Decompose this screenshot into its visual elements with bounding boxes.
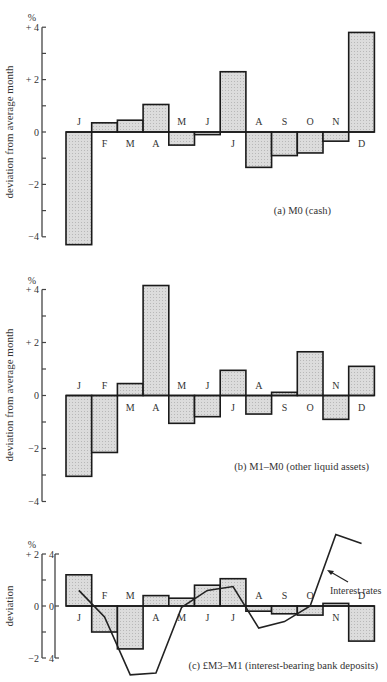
panel-title: (c) £M3–M1 (interest-bearing bank deposi… bbox=[188, 660, 378, 672]
month-label: J bbox=[77, 612, 81, 623]
month-label: A bbox=[152, 612, 160, 623]
y-tick-label: −4 bbox=[28, 496, 39, 507]
bar bbox=[349, 32, 375, 132]
y-axis-label: deviation bbox=[3, 585, 15, 626]
y-tick-label: + 4 bbox=[26, 284, 39, 295]
month-label: N bbox=[332, 612, 339, 623]
bar bbox=[349, 366, 375, 395]
month-label: D bbox=[358, 138, 365, 149]
bar bbox=[246, 396, 272, 415]
unit-label: % bbox=[28, 12, 36, 23]
y-axis-label: deviation from average month bbox=[3, 65, 15, 198]
bar bbox=[92, 123, 118, 132]
unit-label: % bbox=[28, 275, 36, 286]
panel-title: (b) M1–M0 (other liquid assets) bbox=[234, 461, 369, 473]
panel-c-m3-m1: + 20−2%deviationJFMAMJJASOND(c) £M3–M1 (… bbox=[3, 535, 381, 675]
month-label: A bbox=[255, 380, 263, 391]
bar bbox=[297, 352, 323, 396]
bar bbox=[246, 132, 272, 167]
secondary-tick-label: 0 bbox=[49, 601, 54, 612]
month-label: O bbox=[307, 116, 314, 127]
y-tick-label: + 2 bbox=[26, 337, 39, 348]
bar bbox=[323, 132, 349, 141]
bar bbox=[143, 596, 169, 606]
bar bbox=[272, 132, 298, 156]
month-label: A bbox=[255, 116, 263, 127]
y-tick-label: 0 bbox=[34, 127, 39, 138]
arrowhead-icon bbox=[327, 570, 334, 575]
seasonal-deviation-charts: + 4+ 20−2−4%deviation from average month… bbox=[0, 0, 387, 682]
month-label: A bbox=[152, 138, 160, 149]
month-label: J bbox=[231, 138, 235, 149]
y-tick-label: −4 bbox=[28, 231, 39, 242]
bar bbox=[272, 606, 298, 614]
unit-label: % bbox=[28, 539, 36, 550]
bar bbox=[66, 132, 92, 245]
bar bbox=[220, 72, 246, 132]
bar bbox=[143, 104, 169, 132]
bar bbox=[297, 132, 323, 153]
month-label: F bbox=[102, 380, 108, 391]
month-label: J bbox=[205, 380, 209, 391]
month-label: S bbox=[282, 590, 288, 601]
y-tick-label: + 2 bbox=[26, 74, 39, 85]
bar bbox=[220, 370, 246, 395]
month-label: S bbox=[282, 116, 288, 127]
month-label: A bbox=[152, 402, 160, 413]
panel-title: (a) M0 (cash) bbox=[274, 205, 332, 217]
y-tick-label: −2 bbox=[28, 653, 39, 664]
month-label: D bbox=[358, 402, 365, 413]
y-tick-label: −2 bbox=[28, 443, 39, 454]
month-label: O bbox=[307, 402, 314, 413]
month-label: J bbox=[77, 380, 81, 391]
panel-b-m1-m0: + 4+ 20−2−4%deviation from average month… bbox=[3, 275, 374, 508]
month-label: N bbox=[332, 116, 339, 127]
month-label: J bbox=[231, 612, 235, 623]
secondary-tick-label: 4 bbox=[49, 653, 54, 664]
month-label: M bbox=[177, 116, 186, 127]
month-label: N bbox=[332, 380, 339, 391]
month-label: S bbox=[282, 402, 288, 413]
y-tick-label: 0 bbox=[34, 390, 39, 401]
month-label: F bbox=[102, 590, 108, 601]
bar bbox=[169, 396, 195, 424]
panel-a-m0-cash: + 4+ 20−2−4%deviation from average month… bbox=[3, 12, 374, 244]
y-tick-label: −2 bbox=[28, 179, 39, 190]
month-label: J bbox=[77, 116, 81, 127]
y-tick-label: + 2 bbox=[26, 549, 39, 560]
month-label: J bbox=[231, 402, 235, 413]
bar bbox=[117, 120, 143, 132]
bar bbox=[195, 396, 221, 417]
bar bbox=[117, 384, 143, 396]
secondary-tick-label: 4 bbox=[49, 549, 54, 560]
month-label: J bbox=[205, 116, 209, 127]
interest-rates-annotation: Interest rates bbox=[330, 585, 381, 596]
bar bbox=[349, 606, 375, 641]
month-label: M bbox=[126, 590, 135, 601]
bar bbox=[117, 606, 143, 649]
y-axis-label: deviation from average month bbox=[3, 328, 15, 461]
bar bbox=[66, 396, 92, 477]
month-label: M bbox=[177, 380, 186, 391]
bar bbox=[169, 132, 195, 145]
month-label: F bbox=[102, 138, 108, 149]
month-label: J bbox=[205, 612, 209, 623]
month-label: M bbox=[126, 138, 135, 149]
bar bbox=[143, 286, 169, 396]
y-tick-label: 0 bbox=[34, 601, 39, 612]
month-label: A bbox=[255, 590, 263, 601]
bar bbox=[323, 396, 349, 420]
month-label: M bbox=[126, 402, 135, 413]
bar bbox=[92, 396, 118, 453]
y-tick-label: + 4 bbox=[26, 22, 39, 33]
